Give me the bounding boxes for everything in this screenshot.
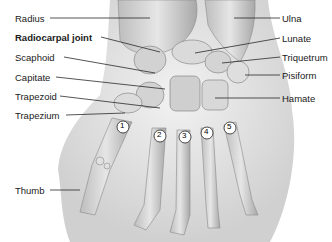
- metacarpal-number-4: 4: [204, 127, 208, 136]
- label-scaphoid: Scaphoid: [15, 52, 55, 63]
- label-pisiform: Pisiform: [282, 70, 316, 81]
- label-thumb: Thumb: [15, 185, 45, 196]
- label-ulna: Ulna: [282, 13, 302, 24]
- label-trapezoid: Trapezoid: [15, 91, 57, 102]
- label-capitate: Capitate: [15, 72, 50, 83]
- label-radiocarpal-joint: Radiocarpal joint: [15, 32, 92, 43]
- wrist-hand-diagram: 1 2 3 4 5 Radius Radiocarpal joint Scaph…: [0, 0, 332, 242]
- metacarpal-number-3: 3: [182, 131, 186, 140]
- label-trapezium: Trapezium: [15, 110, 60, 121]
- metacarpal-number-2: 2: [157, 130, 161, 139]
- label-hamate: Hamate: [282, 93, 315, 104]
- label-lunate: Lunate: [282, 33, 311, 44]
- metacarpal-number-5: 5: [227, 122, 231, 131]
- label-radius: Radius: [15, 13, 45, 24]
- metacarpal-number-1: 1: [120, 121, 124, 130]
- label-triquetrum: Triquetrum: [282, 52, 328, 63]
